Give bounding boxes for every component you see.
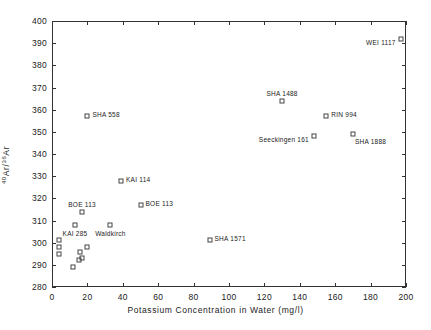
y-tick-label: 360 <box>25 105 47 115</box>
y-tick-right <box>402 110 406 111</box>
y-tick <box>52 221 56 222</box>
x-tick <box>300 283 301 287</box>
y-tick-label: 370 <box>25 83 47 93</box>
data-point-marker <box>207 238 212 243</box>
y-tick-right <box>402 21 406 22</box>
y-tick-label: 380 <box>25 60 47 70</box>
y-axis-sup-40: 40 <box>1 176 7 184</box>
data-point-label: BOE 113 <box>146 199 174 206</box>
y-tick-label: 290 <box>25 260 47 270</box>
y-tick-right <box>402 243 406 244</box>
data-point-marker <box>280 98 285 103</box>
x-tick <box>158 283 159 287</box>
data-point-label: SHA 558 <box>92 111 119 118</box>
x-tick-label: 200 <box>398 292 413 302</box>
x-tick-label: 40 <box>118 292 128 302</box>
x-tick-label: 80 <box>189 292 199 302</box>
x-tick-top <box>123 21 124 25</box>
x-tick <box>335 283 336 287</box>
data-point-label: Seeckingen 161 <box>259 136 309 143</box>
y-axis-ar-tail: Ar <box>1 146 11 156</box>
y-tick-right <box>402 198 406 199</box>
y-tick <box>52 243 56 244</box>
y-tick-right <box>402 132 406 133</box>
data-point-label: SHA 1488 <box>266 89 297 96</box>
x-tick-label: 120 <box>257 292 272 302</box>
data-point-label: SHA 1888 <box>355 138 386 145</box>
x-tick-top <box>264 21 265 25</box>
x-tick-top <box>87 21 88 25</box>
data-point-label: KAI 285 <box>63 229 88 236</box>
y-tick-label: 350 <box>25 127 47 137</box>
data-point-marker <box>71 265 76 270</box>
x-tick <box>264 283 265 287</box>
x-tick-label: 20 <box>82 292 92 302</box>
y-tick-right <box>402 287 406 288</box>
x-tick <box>406 283 407 287</box>
y-axis-sup-36: 36 <box>1 156 7 164</box>
y-tick-label: 310 <box>25 216 47 226</box>
y-tick <box>52 21 56 22</box>
plot-frame <box>52 21 406 287</box>
y-tick-right <box>402 88 406 89</box>
x-tick <box>87 283 88 287</box>
data-point-marker <box>57 245 62 250</box>
x-tick-top <box>335 21 336 25</box>
y-axis-title: 40Ar/36Ar <box>1 146 12 184</box>
y-tick-label: 320 <box>25 193 47 203</box>
y-tick-right <box>402 265 406 266</box>
x-tick-top <box>194 21 195 25</box>
y-tick-label: 390 <box>25 38 47 48</box>
data-point-label: Waldkirch <box>95 229 126 236</box>
y-tick-right <box>402 176 406 177</box>
x-tick-top <box>406 21 407 25</box>
scatter-chart: 0204060801001201401601802002802903003103… <box>0 0 431 330</box>
data-point-marker <box>398 36 403 41</box>
data-point-marker <box>324 114 329 119</box>
y-tick <box>52 43 56 44</box>
data-point-marker <box>119 178 124 183</box>
x-tick-label: 160 <box>328 292 343 302</box>
data-point-label: KAI 114 <box>126 175 150 182</box>
x-axis-title: Potassium Concentration in Water (mg/l) <box>127 305 303 315</box>
y-tick-label: 280 <box>25 282 47 292</box>
data-point-label: WEI 1117 <box>366 38 396 45</box>
data-point-marker <box>73 222 78 227</box>
y-tick <box>52 65 56 66</box>
data-point-marker <box>108 222 113 227</box>
y-tick <box>52 265 56 266</box>
data-point-label: SHA 1571 <box>215 235 246 242</box>
y-tick <box>52 287 56 288</box>
data-point-marker <box>78 249 83 254</box>
y-tick-right <box>402 154 406 155</box>
y-tick <box>52 88 56 89</box>
x-tick <box>194 283 195 287</box>
data-point-marker <box>350 132 355 137</box>
y-tick <box>52 154 56 155</box>
x-tick-top <box>300 21 301 25</box>
y-axis-ar-slash: Ar/ <box>1 164 11 177</box>
data-point-marker <box>311 134 316 139</box>
x-tick <box>229 283 230 287</box>
data-point-label: RIN 994 <box>331 111 357 118</box>
y-tick <box>52 110 56 111</box>
x-tick <box>123 283 124 287</box>
x-tick-label: 140 <box>292 292 307 302</box>
y-tick <box>52 198 56 199</box>
y-tick-label: 300 <box>25 238 47 248</box>
y-tick-right <box>402 221 406 222</box>
x-tick-top <box>371 21 372 25</box>
x-tick-label: 100 <box>221 292 236 302</box>
x-tick-label: 180 <box>363 292 378 302</box>
data-point-marker <box>57 251 62 256</box>
y-tick-right <box>402 43 406 44</box>
y-tick <box>52 176 56 177</box>
y-tick-right <box>402 65 406 66</box>
data-point-marker <box>80 209 85 214</box>
x-tick-top <box>229 21 230 25</box>
data-point-marker <box>138 202 143 207</box>
x-tick-label: 0 <box>49 292 54 302</box>
y-tick-label: 340 <box>25 149 47 159</box>
x-tick <box>371 283 372 287</box>
data-point-marker <box>80 256 85 261</box>
